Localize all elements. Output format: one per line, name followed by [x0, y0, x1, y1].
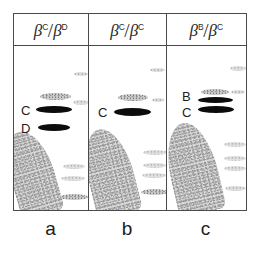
gel-lane-b: C — [89, 46, 167, 210]
faint-gel-band — [231, 90, 245, 94]
panel-caption-a: a — [13, 218, 88, 248]
faint-gel-band — [230, 66, 246, 71]
band-annotation-label: D — [21, 122, 30, 135]
faint-gel-band — [143, 150, 167, 155]
genotype-header-cell-c: βB/βC — [167, 14, 246, 45]
beta-symbol: β — [34, 21, 42, 41]
slash-divider: / — [203, 20, 208, 42]
beta-symbol: β — [130, 21, 138, 41]
gel-smear-blob — [14, 126, 65, 210]
faint-gel-band — [201, 89, 229, 95]
dark-gel-band — [114, 108, 151, 116]
faint-gel-band — [152, 98, 164, 102]
gel-frame: βC/βD βC/βC βB/βC CD C BC — [13, 13, 247, 211]
faint-gel-band — [224, 166, 246, 171]
genotype-header-cell-b: βC/βC — [89, 14, 167, 45]
faint-gel-band — [118, 94, 148, 101]
band-annotation-label: B — [182, 90, 191, 103]
faint-gel-band — [225, 186, 246, 191]
band-annotation-label: C — [182, 106, 191, 119]
genotype-label-a: βC/βD — [34, 19, 69, 41]
beta-symbol: β — [53, 21, 61, 41]
faint-gel-band — [63, 164, 85, 169]
gel-smear-blob — [89, 124, 143, 210]
beta-symbol: β — [189, 21, 197, 41]
panel-captions: a b c — [13, 218, 247, 248]
slash-divider: / — [48, 20, 53, 42]
faint-gel-band — [60, 194, 88, 200]
faint-gel-band — [141, 189, 167, 195]
panel-caption-b: b — [88, 218, 166, 248]
faint-gel-band — [61, 176, 85, 181]
faint-gel-band — [40, 93, 71, 100]
genotype-header-row: βC/βD βC/βC βB/βC — [14, 14, 246, 46]
faint-gel-band — [224, 142, 246, 147]
faint-gel-band — [143, 163, 166, 168]
slash-divider: / — [124, 20, 129, 42]
allele-superscript: C — [138, 22, 144, 32]
genotype-label-c: βB/βC — [189, 19, 223, 41]
gel-smear-blob — [167, 118, 227, 210]
dark-gel-band — [36, 106, 72, 113]
dark-gel-band — [198, 106, 234, 113]
beta-symbol: β — [208, 21, 216, 41]
genotype-header-cell-a: βC/βD — [14, 14, 89, 45]
faint-gel-band — [224, 156, 246, 161]
gel-lanes: CD C BC — [14, 46, 246, 210]
faint-gel-band — [73, 100, 89, 105]
gel-lane-a: CD — [14, 46, 89, 210]
gel-lane-c: BC — [167, 46, 246, 210]
faint-gel-band — [150, 68, 165, 72]
faint-gel-band — [74, 72, 88, 76]
panel-caption-c: c — [166, 218, 245, 248]
band-annotation-label: C — [21, 104, 30, 117]
faint-gel-band — [142, 173, 166, 178]
beta-symbol: β — [110, 21, 118, 41]
gel-figure: βC/βD βC/βC βB/βC CD C BC a b c — [0, 0, 261, 257]
genotype-label-b: βC/βC — [110, 19, 145, 41]
dark-gel-band — [38, 124, 70, 131]
dark-gel-band — [198, 97, 233, 103]
band-annotation-label: C — [98, 106, 107, 119]
allele-superscript: D — [62, 22, 68, 32]
allele-superscript: C — [217, 22, 223, 32]
